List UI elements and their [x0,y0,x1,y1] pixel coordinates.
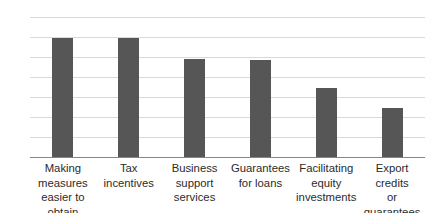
bar [184,59,205,157]
bar [316,88,337,157]
bars-layer [30,10,425,160]
x-axis-category-label: Makingmeasureseasier to obtain [30,161,96,213]
x-axis-label-line: Export credits [359,161,425,190]
x-axis-label-line: services [162,190,228,205]
bar [118,38,139,157]
x-axis-label-line: Facilitating [293,161,359,176]
x-axis-label-line: support [162,176,228,191]
x-axis-label-line: measures [30,176,96,191]
x-axis-category-label: Businesssupportservices [162,161,228,205]
x-axis-label-line: for loans [228,176,294,191]
x-axis-label-line: equity [293,176,359,191]
x-axis-label-line: easier to obtain [30,190,96,213]
x-axis-category-label: Guaranteesfor loans [228,161,294,190]
x-axis-labels: Makingmeasureseasier to obtainTax incent… [30,161,425,213]
x-axis-label-line: investments [293,190,359,205]
bar [52,38,73,157]
x-axis-label-line: Tax incentives [96,161,162,190]
x-axis-label-line: or guarantees [359,190,425,213]
x-axis-label-line: Making [30,161,96,176]
x-axis-category-label: Tax incentives [96,161,162,190]
x-axis-category-label: Export creditsor guarantees [359,161,425,213]
bar [250,60,271,157]
plot-area: 01234567 [30,10,425,160]
bar-chart: 01234567 Makingmeasureseasier to obtainT… [0,0,433,213]
bar [382,108,403,157]
x-axis-label-line: Guarantees [228,161,294,176]
x-axis-category-label: Facilitatingequityinvestments [293,161,359,205]
x-axis-label-line: Business [162,161,228,176]
